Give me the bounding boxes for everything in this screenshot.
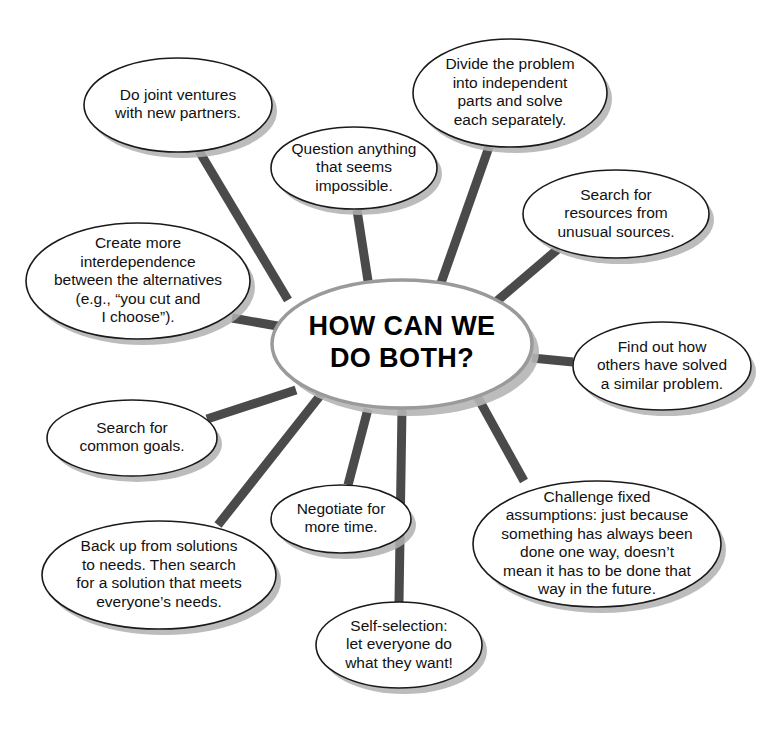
node-label-line: Create more xyxy=(95,234,181,251)
node-label-line: to needs. Then search xyxy=(82,556,236,573)
node-label-line: each separately. xyxy=(454,111,567,128)
node-label-line: Divide the problem xyxy=(445,55,574,72)
node-label-line: Negotiate for xyxy=(297,500,386,517)
node-label-line: way in the future. xyxy=(537,580,656,597)
node-label-line: Back up from solutions xyxy=(81,537,238,554)
center-node[interactable]: HOW CAN WEDO BOTH? xyxy=(272,280,539,416)
node-others-solved[interactable]: Find out howothers have solveda similar … xyxy=(573,322,756,416)
node-label-line: assumptions: just because xyxy=(506,506,689,523)
node-label-line: Do joint ventures xyxy=(120,86,237,103)
node-question-impossible[interactable]: Question anythingthat seemsimpossible. xyxy=(271,127,442,215)
center-title-line: HOW CAN WE xyxy=(309,311,496,341)
node-label-line: what they want! xyxy=(344,654,453,671)
node-label-line: others have solved xyxy=(597,356,727,373)
node-label-line: parts and solve xyxy=(457,92,562,109)
node-label-line: Challenge fixed xyxy=(544,488,651,505)
node-label-line: Search for xyxy=(580,186,652,203)
node-label-line: let everyone do xyxy=(346,635,452,652)
node-label-line: impossible. xyxy=(315,177,393,194)
mind-map-diagram: Do joint ventureswith new partners.Quest… xyxy=(0,0,777,729)
spoke-divide-problem xyxy=(441,147,489,283)
node-label-line: interdependence xyxy=(80,253,196,270)
node-challenge-assumptions[interactable]: Challenge fixedassumptions: just because… xyxy=(473,481,726,613)
node-label-line: mean it has to be done that xyxy=(503,562,692,579)
node-label-line: Self-selection: xyxy=(350,617,447,634)
node-label-line: into independent xyxy=(453,74,568,91)
center-node-layer: HOW CAN WEDO BOTH? xyxy=(272,280,539,416)
node-common-goals[interactable]: Search forcommon goals. xyxy=(47,400,222,482)
spoke-question-impossible xyxy=(357,210,368,281)
node-label-line: I choose”). xyxy=(101,308,174,325)
node-joint-ventures[interactable]: Do joint ventureswith new partners. xyxy=(84,58,277,158)
node-label-line: something has always been xyxy=(501,525,692,542)
node-label-line: Search for xyxy=(96,419,168,436)
node-negotiate-time[interactable]: Negotiate formore time. xyxy=(271,485,416,559)
spoke-negotiate-time xyxy=(348,409,368,485)
node-label-line: that seems xyxy=(316,158,392,175)
node-label-line: common goals. xyxy=(79,437,184,454)
node-back-up-to-needs[interactable]: Back up from solutionsto needs. Then sea… xyxy=(42,521,281,635)
center-title-line: DO BOTH? xyxy=(330,343,474,373)
node-label-line: between the alternatives xyxy=(54,271,222,288)
mind-map-canvas: Do joint ventureswith new partners.Quest… xyxy=(0,0,777,729)
node-label-line: (e.g., “you cut and xyxy=(76,290,201,307)
spoke-common-goals xyxy=(207,390,296,419)
node-label-line: more time. xyxy=(304,518,377,535)
node-label-line: unusual sources. xyxy=(557,223,674,240)
spoke-unusual-resources xyxy=(497,249,558,301)
node-label-line: for a solution that meets xyxy=(76,574,242,591)
node-divide-problem[interactable]: Divide the probleminto independentparts … xyxy=(413,39,612,153)
node-interdependence[interactable]: Create moreinterdependencebetween the al… xyxy=(26,223,255,345)
node-label-line: Question anything xyxy=(292,140,417,157)
spoke-challenge-assumptions xyxy=(477,396,524,481)
node-label-line: with new partners. xyxy=(114,104,241,121)
node-label-line: done one way, doesn’t xyxy=(520,543,675,560)
node-label-line: a similar problem. xyxy=(601,375,723,392)
node-label-line: Find out how xyxy=(618,338,708,355)
node-label-line: everyone’s needs. xyxy=(96,593,222,610)
spoke-interdependence xyxy=(232,318,283,327)
node-self-selection[interactable]: Self-selection:let everyone dowhat they … xyxy=(316,602,487,694)
node-label-line: resources from xyxy=(564,204,667,221)
